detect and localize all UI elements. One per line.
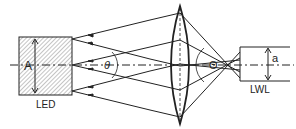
label-source-dimension: A <box>24 59 32 73</box>
label-theta-large: Θ <box>209 59 218 71</box>
label-fiber-dimension: a <box>272 52 279 64</box>
label-led: LED <box>36 99 55 110</box>
label-lwl: LWL <box>250 84 270 95</box>
led-to-fiber-coupling-diagram: A LED θ Θ a LWL <box>0 0 296 129</box>
label-theta-small: θ <box>104 59 110 71</box>
fiber-lwl <box>240 47 290 81</box>
